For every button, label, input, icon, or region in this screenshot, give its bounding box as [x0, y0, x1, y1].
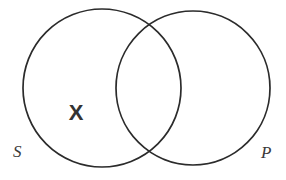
- predicate-circle-p: [116, 11, 270, 165]
- predicate-term-label: P: [261, 144, 271, 161]
- subject-term-label: S: [13, 143, 22, 160]
- subject-circle-s: [23, 9, 181, 167]
- venn-diagram-figure: S P X: [0, 0, 286, 180]
- x-mark-symbol: X: [66, 101, 86, 125]
- venn-diagram-canvas: [0, 0, 286, 180]
